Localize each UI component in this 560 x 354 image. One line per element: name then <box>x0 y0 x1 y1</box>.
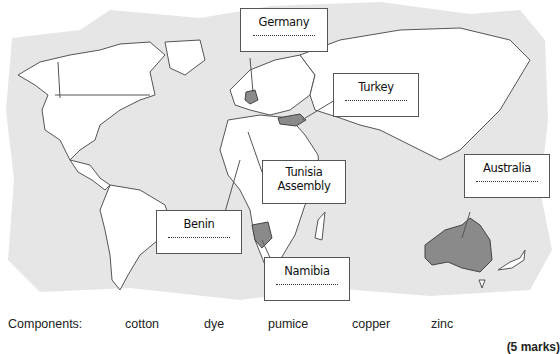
marks-label: (5 marks) <box>507 340 560 354</box>
callout-label: Turkey <box>334 80 418 94</box>
answer-blank[interactable] <box>476 181 538 182</box>
answer-blank[interactable] <box>253 35 315 36</box>
component-item: copper <box>352 317 390 331</box>
callout-australia: Australia <box>464 154 550 198</box>
callout-turkey: Turkey <box>333 73 419 117</box>
callout-tunisia: Tunisia Assembly <box>262 160 346 204</box>
callout-label: Australia <box>465 161 549 175</box>
answer-blank[interactable] <box>168 237 230 238</box>
component-item: cotton <box>125 317 159 331</box>
components-heading: Components: <box>8 317 82 331</box>
component-item: dye <box>204 317 224 331</box>
answer-blank[interactable] <box>276 284 338 285</box>
callout-label: Namibia <box>265 264 349 278</box>
callout-namibia: Namibia <box>264 257 350 301</box>
callout-benin: Benin <box>156 210 242 254</box>
component-item: pumice <box>268 317 308 331</box>
component-item: zinc <box>431 317 453 331</box>
answer-blank[interactable] <box>345 100 407 101</box>
callout-label: Tunisia Assembly <box>274 165 334 193</box>
callout-label: Germany <box>241 15 327 29</box>
callout-germany: Germany <box>240 8 328 52</box>
callout-label: Benin <box>157 217 241 231</box>
components-row: Components: cotton dye pumice copper zin… <box>0 317 560 335</box>
